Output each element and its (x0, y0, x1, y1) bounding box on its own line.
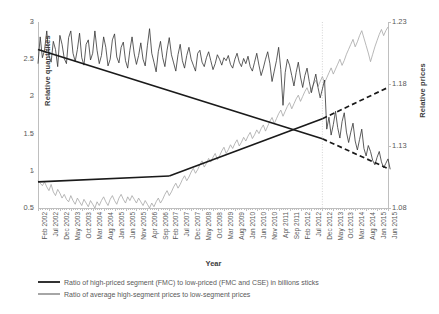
x-axis-tick-label: Jan 2015 (380, 212, 387, 239)
y-axis-right-tick-label: 1.23 (392, 18, 407, 26)
x-axis-tick-mark (336, 208, 337, 210)
x-axis-tick-mark (311, 208, 312, 211)
x-axis-tick-label: Apr 2006 (151, 212, 158, 238)
x-axis-tick-mark (364, 208, 365, 210)
x-axis-tick-mark (338, 208, 339, 210)
x-axis-tick-mark (386, 208, 387, 210)
x-axis-tick-mark (318, 208, 319, 210)
plot-svg (38, 22, 388, 208)
x-axis-tick-mark (47, 208, 48, 210)
x-axis-tick-mark (231, 208, 232, 210)
x-axis-tick-label: Mar 2014 (358, 212, 365, 239)
x-axis-tick-mark (217, 208, 218, 210)
x-axis-tick-mark (115, 208, 116, 211)
x-axis-tick-mark (112, 208, 113, 210)
x-axis-tick-mark (228, 208, 229, 210)
x-axis-tick-mark (346, 208, 347, 210)
x-axis-tick-label: Aug 2009 (238, 212, 245, 240)
x-axis-tick-label: May 2003 (74, 212, 81, 241)
x-axis-tick-mark (163, 208, 164, 210)
x-axis-tick-mark (279, 208, 280, 211)
x-axis-tick-mark (381, 208, 382, 210)
x-axis-tick-label: Jun 2010 (260, 212, 267, 239)
legend: Ratio of high-priced segment (FMC) to lo… (38, 276, 418, 300)
y-axis-right-tick-mark (388, 22, 391, 23)
x-axis-tick-mark (211, 208, 212, 210)
x-axis-tick-mark (287, 208, 288, 210)
x-axis-tick-label: Nov 2005 (140, 212, 147, 240)
x-axis-tick-mark (351, 208, 352, 210)
x-axis-tick-mark (259, 208, 260, 210)
x-axis-tick-mark (252, 208, 253, 210)
x-axis-tick-mark (156, 208, 157, 210)
x-axis-tick-mark (366, 208, 367, 211)
x-axis-tick-mark (331, 208, 332, 210)
x-axis-tick-mark (141, 208, 142, 210)
x-axis-tick-label: May 2008 (205, 212, 212, 241)
x-axis-tick-mark (204, 208, 205, 210)
x-axis-tick-mark (51, 208, 52, 210)
x-axis-tick-mark (235, 208, 236, 211)
x-axis-tick-mark (316, 208, 317, 210)
x-axis-tick-label: Oct 2003 (85, 212, 92, 238)
x-axis-tick-mark (283, 208, 284, 210)
x-axis-tick-mark (314, 208, 315, 210)
x-axis-tick-label: Oct 2013 (347, 212, 354, 238)
y-axis-left-tick-mark (31, 22, 34, 23)
plot-area (38, 22, 388, 208)
x-axis-tick-mark (88, 208, 89, 210)
x-axis-tick-mark (93, 208, 94, 211)
x-axis-tick-mark (42, 208, 43, 210)
x-axis-tick-mark (241, 208, 242, 210)
x-axis-tick-label: Jun 2015 (391, 212, 398, 239)
x-axis-tick-mark (362, 208, 363, 210)
x-axis-tick-mark (101, 208, 102, 210)
x-axis-tick-mark (357, 208, 358, 210)
x-axis-tick-mark (69, 208, 70, 210)
x-axis-tick-mark (220, 208, 221, 210)
x-axis-tick-label: Jan 2010 (249, 212, 256, 239)
x-axis-tick-mark (178, 208, 179, 210)
x-axis-tick-mark (224, 208, 225, 211)
x-axis-tick-mark (53, 208, 54, 210)
x-axis-tick-mark (106, 208, 107, 210)
x-axis-tick-label: Jul 2012 (315, 212, 322, 237)
x-axis-tick-mark (176, 208, 177, 210)
x-axis-tick-mark (226, 208, 227, 210)
x-axis-title: Year (38, 259, 389, 268)
x-axis-tick-mark (38, 208, 39, 211)
chart-container: 0.511.522.53 1.081.131.181.23 Relative q… (0, 0, 439, 314)
x-axis-tick-mark (268, 208, 269, 211)
x-axis-tick-mark (136, 208, 137, 211)
x-axis-tick-label: Nov 2010 (271, 212, 278, 240)
x-axis-tick-mark (281, 208, 282, 210)
x-axis-tick-mark (182, 208, 183, 210)
x-axis-tick-mark (110, 208, 111, 210)
x-axis-tick-mark (342, 208, 343, 210)
x-axis-tick-mark (257, 208, 258, 211)
x-axis-tick-mark (167, 208, 168, 210)
x-axis-tick-mark (187, 208, 188, 210)
x-axis-tick-mark (368, 208, 369, 210)
x-axis-tick-mark (233, 208, 234, 210)
x-axis-tick-mark (121, 208, 122, 210)
x-axis-tick-label: Apr 2011 (282, 212, 289, 238)
y-axis-right-tick-mark (388, 84, 391, 85)
x-axis-tick-label: Mar 2004 (96, 212, 103, 239)
x-axis-tick-label: Dec 2007 (194, 212, 201, 240)
y-axis-right-line (388, 22, 389, 209)
x-axis-tick-mark (198, 208, 199, 210)
x-axis-tick-mark (84, 208, 85, 210)
x-axis-tick-mark (117, 208, 118, 210)
x-axis-tick-mark (244, 208, 245, 210)
y-axis-right-title: Relative prices (418, 41, 427, 141)
x-axis-tick-mark (272, 208, 273, 210)
series-quantity-line (38, 29, 390, 170)
x-axis-tick-mark (274, 208, 275, 210)
y-axis-left-tick-mark (31, 96, 34, 97)
x-axis-tick-mark (64, 208, 65, 210)
x-axis-tick-mark (290, 208, 291, 211)
x-axis-tick-mark (139, 208, 140, 210)
x-axis-tick-mark (45, 208, 46, 210)
x-axis-tick-label: Aug 2014 (369, 212, 376, 240)
